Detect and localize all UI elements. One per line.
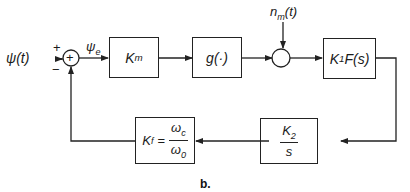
km-sub: m (135, 52, 143, 63)
figure-caption: b. (200, 177, 211, 191)
kf-fraction: ωc ω0 (169, 121, 188, 159)
k2s-num-sub: 2 (291, 130, 296, 140)
k2s-fraction: K2 s (280, 124, 298, 159)
k1f-fs: F(s) (344, 51, 369, 67)
noise-sub: m (277, 12, 285, 22)
block-k1f: K1F(s) (323, 38, 376, 79)
block-kf: Kf = ωc ω0 (135, 117, 195, 164)
block-km: Km (109, 37, 159, 78)
diagram-lines (0, 0, 410, 192)
minus-sign: − (52, 62, 60, 77)
kf-k: K (142, 133, 151, 148)
kf-sub: f (151, 136, 154, 146)
kf-den-sub: 0 (181, 150, 186, 160)
block-g: g(·) (192, 37, 242, 78)
input-label: ψ(t) (6, 50, 29, 66)
noise-junction (272, 49, 290, 67)
noise-label: nm(t) (270, 4, 297, 22)
summing-plus-symbol: + (66, 50, 74, 65)
kf-num: ω (171, 120, 181, 135)
error-sub: e (95, 47, 100, 57)
block-k2-over-s: K2 s (260, 118, 318, 164)
k2s-den: s (286, 143, 293, 158)
error-signal-label: ψe (86, 39, 101, 57)
plus-sign: + (53, 40, 61, 55)
k2s-num: K (282, 123, 291, 138)
noise-arg: (t) (285, 4, 297, 19)
kf-num-sub: c (181, 128, 186, 138)
k1f-k: K (330, 51, 339, 67)
kf-eq: = (157, 133, 165, 148)
km-main: K (125, 50, 134, 66)
kf-den: ω (171, 142, 181, 157)
